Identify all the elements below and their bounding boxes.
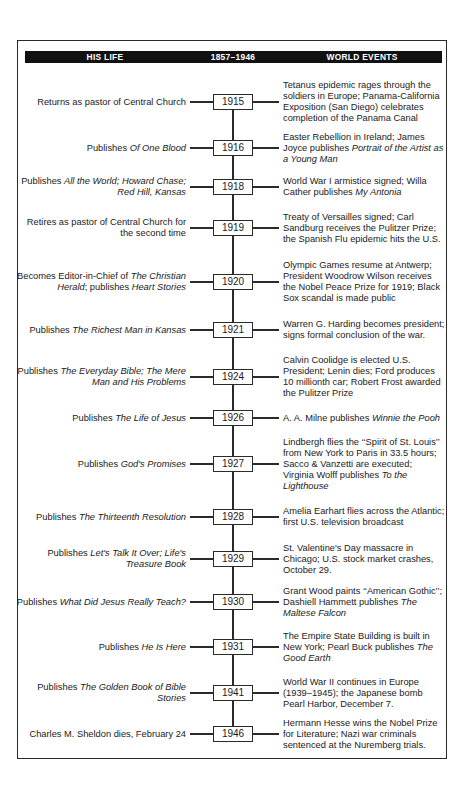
life-event-text: Publishes The Golden Book of Bible Stori… (16, 682, 186, 704)
right-connector-line (253, 147, 279, 148)
left-connector-line (190, 646, 213, 647)
text-segment: Treaty of Versailles signed; Carl Sandbu… (283, 212, 441, 244)
world-event-text: Warren G. Harding becomes president; sig… (283, 319, 445, 341)
right-connector-line (253, 227, 279, 228)
text-segment: St. Valentine's Day massacre in Chicago;… (283, 543, 433, 575)
right-connector-line (253, 417, 279, 418)
world-event-text: Treaty of Versailles signed; Carl Sandbu… (283, 212, 445, 245)
text-segment: Warren G. Harding becomes president; sig… (283, 319, 444, 340)
left-connector-line (190, 601, 213, 602)
year-box: 1927 (213, 456, 253, 472)
year-box: 1931 (213, 639, 253, 655)
left-connector-line (190, 417, 213, 418)
text-segment: Calvin Coolidge is elected U.S. Presiden… (283, 355, 441, 398)
title-italic: The Life of Jesus (115, 413, 186, 423)
life-event-text: Charles M. Sheldon dies, February 24 (16, 729, 186, 740)
title-italic: Of One Blood (130, 143, 186, 153)
world-event-text: Calvin Coolidge is elected U.S. Presiden… (283, 355, 445, 399)
world-event-text: Hermann Hesse wins the Nobel Prize for L… (283, 718, 445, 751)
life-event-text: Publishes The Life of Jesus (16, 413, 186, 424)
right-connector-line (253, 186, 279, 187)
right-connector-line (253, 329, 279, 330)
year-box: 1924 (213, 369, 253, 385)
text-segment: Tetanus epidemic rages through the soldi… (283, 80, 440, 123)
left-connector-line (190, 329, 213, 330)
life-event-text: Publishes The Thirteenth Resolution (16, 512, 186, 523)
title-italic: Let's Talk It Over; Life's Treasure Book (90, 548, 186, 569)
text-segment: Hermann Hesse wins the Nobel Prize for L… (283, 718, 438, 750)
text-segment: Publishes (37, 682, 80, 692)
life-event-text: Publishes All the World; Howard Chase; R… (16, 176, 186, 198)
left-connector-line (190, 147, 213, 148)
text-segment: Amelia Earhart flies across the Atlantic… (283, 506, 444, 527)
left-connector-line (190, 281, 213, 282)
header-his-life: HIS LIFE (87, 51, 124, 63)
title-italic: Winnie the Pooh (372, 413, 440, 423)
text-segment: Publishes (78, 459, 121, 469)
world-event-text: Grant Wood paints ‘‘American Gothic’’; D… (283, 586, 445, 619)
left-connector-line (190, 376, 213, 377)
year-box: 1920 (213, 274, 253, 290)
year-box: 1946 (213, 726, 253, 742)
world-event-text: Amelia Earhart flies across the Atlantic… (283, 506, 445, 528)
title-italic: The Everyday Bible; The Mere Man and His… (60, 366, 186, 387)
world-event-text: The Empire State Building is built in Ne… (283, 631, 445, 664)
text-segment: Lindbergh flies the ‘‘Spirit of St. Loui… (283, 437, 439, 480)
text-segment: Grant Wood paints ‘‘American Gothic’’; D… (283, 586, 442, 607)
left-connector-line (190, 692, 213, 693)
text-segment: Publishes (17, 597, 60, 607)
year-box: 1921 (213, 322, 253, 338)
left-connector-line (190, 227, 213, 228)
right-connector-line (253, 558, 279, 559)
year-box: 1915 (213, 94, 253, 110)
world-event-text: Tetanus epidemic rages through the soldi… (283, 80, 445, 124)
year-box: 1928 (213, 509, 253, 525)
year-box: 1916 (213, 140, 253, 156)
right-connector-line (253, 516, 279, 517)
header-bar: HIS LIFE 1857–1946 WORLD EVENTS (25, 51, 442, 63)
right-connector-line (253, 376, 279, 377)
world-event-text: St. Valentine's Day massacre in Chicago;… (283, 543, 445, 576)
year-box: 1919 (213, 220, 253, 236)
text-segment: Olympic Games resume at Antwerp; Preside… (283, 260, 440, 303)
text-segment: Publishes (99, 642, 142, 652)
title-italic: My Antonia (355, 187, 401, 197)
text-segment: Publishes (87, 143, 130, 153)
text-segment: Publishes (72, 413, 115, 423)
life-event-text: Publishes The Everyday Bible; The Mere M… (16, 366, 186, 388)
life-event-text: Becomes Editor-in-Chief of The Christian… (16, 271, 186, 293)
title-italic: What Did Jesus Really Teach? (60, 597, 186, 607)
left-connector-line (190, 558, 213, 559)
title-italic: The Thirteenth Resolution (79, 512, 186, 522)
life-event-text: Publishes What Did Jesus Really Teach? (16, 597, 186, 608)
world-event-text: Lindbergh flies the ‘‘Spirit of St. Loui… (283, 437, 445, 492)
world-event-text: A. A. Milne publishes Winnie the Pooh (283, 413, 445, 424)
year-box: 1926 (213, 410, 253, 426)
right-connector-line (253, 463, 279, 464)
text-segment: Becomes Editor-in-Chief of (17, 271, 131, 281)
life-event-text: Publishes The Richest Man in Kansas (16, 325, 186, 336)
text-segment: Publishes (29, 325, 72, 335)
text-segment: Publishes (47, 548, 90, 558)
world-event-text: World War II continues in Europe (1939–1… (283, 677, 445, 710)
title-italic: God's Promises (121, 459, 186, 469)
life-event-text: Publishes God's Promises (16, 459, 186, 470)
title-italic: Heart Stories (132, 282, 186, 292)
world-event-text: Easter Rebellion in Ireland; James Joyce… (283, 132, 445, 165)
life-event-text: Publishes He Is Here (16, 642, 186, 653)
world-event-text: World War I armistice signed; Willa Cath… (283, 176, 445, 198)
text-segment: Publishes (21, 176, 64, 186)
header-world-events: WORLD EVENTS (326, 51, 397, 63)
year-box: 1941 (213, 685, 253, 701)
life-event-text: Returns as pastor of Central Church (16, 97, 186, 108)
year-box: 1929 (213, 551, 253, 567)
left-connector-line (190, 101, 213, 102)
right-connector-line (253, 601, 279, 602)
life-event-text: Publishes Let's Talk It Over; Life's Tre… (16, 548, 186, 570)
life-event-text: Publishes Of One Blood (16, 143, 186, 154)
left-connector-line (190, 186, 213, 187)
text-segment: A. A. Milne publishes (283, 413, 372, 423)
text-segment: ; publishes (85, 282, 132, 292)
text-segment: Returns as pastor of Central Church (37, 97, 186, 107)
right-connector-line (253, 101, 279, 102)
